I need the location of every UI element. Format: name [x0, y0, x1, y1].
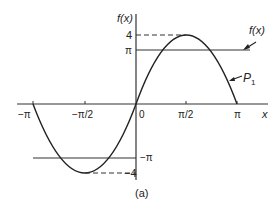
x-axis-label: x: [261, 108, 268, 120]
x-tick-neg-half-pi: −π/2: [72, 109, 94, 120]
x-tick-half-pi: π/2: [178, 109, 194, 120]
y-tick-neg-4: −4: [124, 167, 137, 179]
caption: (a): [135, 187, 148, 199]
y-tick-pi: π: [125, 45, 132, 56]
parabola-label: P1: [243, 71, 256, 87]
plot-figure: f(x) f(x) P1 4 π −π −4 −π −π/2 0 π/2 π x…: [0, 0, 279, 210]
x-tick-zero: 0: [139, 109, 145, 120]
arrow-head-icon: [229, 77, 235, 81]
x-tick-pi: π: [234, 109, 241, 120]
arrow-head-icon: [243, 44, 250, 50]
y-tick-4: 4: [126, 29, 132, 41]
y-axis-label: f(x): [117, 12, 133, 24]
square-wave-label: f(x): [249, 24, 265, 36]
parabola-upper: [136, 35, 237, 104]
y-tick-neg-pi: −π: [140, 152, 153, 163]
x-tick-neg-pi: −π: [18, 109, 31, 120]
